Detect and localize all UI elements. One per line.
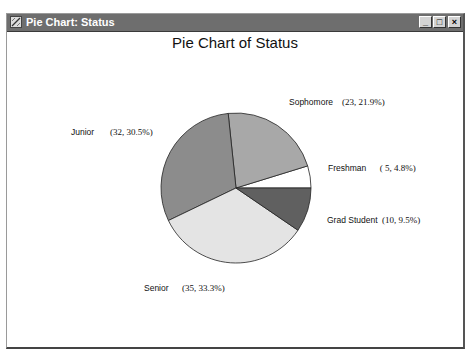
label-value: (32, 30.5%) [110, 127, 153, 137]
label-value: (35, 33.3%) [182, 283, 225, 293]
label-value: ( 5, 4.8%) [380, 163, 416, 173]
label-junior: Junior (32, 30.5%) [71, 127, 153, 137]
label-name: Grad Student [327, 215, 378, 225]
label-name: Junior [71, 127, 94, 137]
label-grad-student: Grad Student (10, 9.5%) [327, 215, 420, 225]
label-name: Sophomore [289, 97, 333, 107]
label-value: (10, 9.5%) [382, 215, 420, 225]
label-sophomore: Sophomore (23, 21.9%) [289, 97, 385, 107]
label-value: (23, 21.9%) [342, 97, 385, 107]
label-senior: Senior (35, 33.3%) [144, 283, 225, 293]
pie-chart [0, 0, 474, 355]
label-name: Senior [144, 283, 169, 293]
label-name: Freshman [328, 163, 366, 173]
label-freshman: Freshman ( 5, 4.8%) [328, 163, 416, 173]
